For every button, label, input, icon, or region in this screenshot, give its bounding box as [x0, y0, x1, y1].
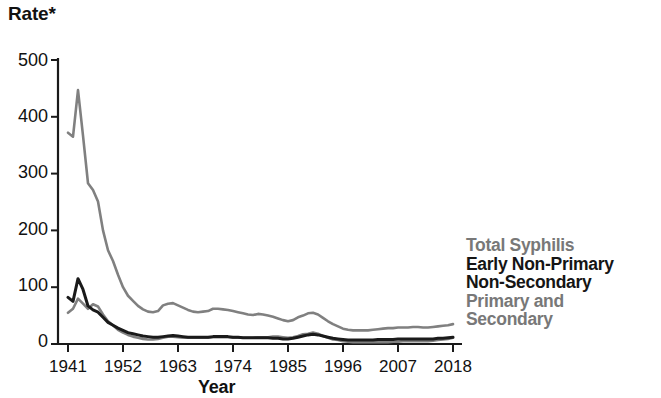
legend-label-total-syphilis: Total Syphilis [466, 235, 574, 255]
legend-item-total-syphilis: Total Syphilis [466, 236, 658, 254]
y-tick-label-400: 400 [2, 106, 48, 127]
legend-label-early-line2: Non-Secondary [466, 273, 658, 291]
x-tick-label-1952: 1952 [95, 357, 151, 377]
y-tick-label-200: 200 [2, 219, 48, 240]
x-tick-label-1985: 1985 [260, 357, 316, 377]
legend: Total Syphilis Early Non-Primary Non-Sec… [466, 236, 658, 328]
x-tick-label-2018: 2018 [425, 357, 481, 377]
x-axis-title: Year [198, 377, 235, 398]
plot-area [0, 0, 661, 398]
x-tick-label-1996: 1996 [315, 357, 371, 377]
y-tick-label-300: 300 [2, 162, 48, 183]
y-tick-label-0: 0 [2, 331, 48, 352]
x-tick-label-1974: 1974 [205, 357, 261, 377]
x-tick-label-2007: 2007 [370, 357, 426, 377]
x-tick-label-1963: 1963 [150, 357, 206, 377]
legend-item-primary-and-secondary: Primary and Secondary [466, 292, 658, 328]
y-tick-label-100: 100 [2, 275, 48, 296]
legend-label-ps-line1: Primary and [466, 292, 658, 310]
syphilis-rate-line-chart: Rate* 500 400 300 200 100 0 1941 1952 19… [0, 0, 661, 398]
legend-label-ps-line2: Secondary [466, 310, 658, 328]
legend-item-early-non-primary-non-secondary: Early Non-Primary Non-Secondary [466, 255, 658, 291]
x-tick-label-1941: 1941 [40, 357, 96, 377]
legend-label-early-line1: Early Non-Primary [466, 255, 658, 273]
y-tick-label-500: 500 [2, 50, 48, 71]
